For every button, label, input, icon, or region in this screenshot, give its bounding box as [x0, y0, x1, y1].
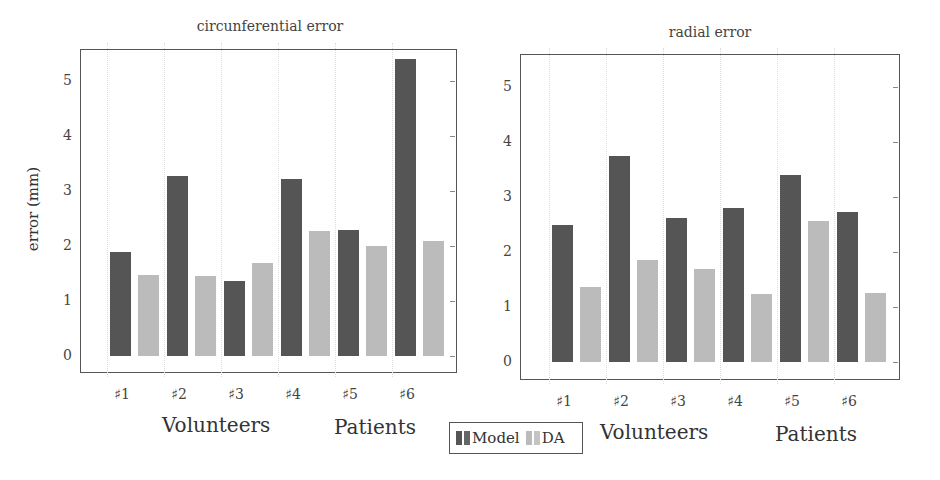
chart-circumferential-error: circunferential error error (mm) Volunte… [0, 0, 470, 460]
y-tick-label: 1 [492, 298, 512, 314]
bar-model-3 [666, 218, 687, 362]
bar-da-5 [366, 246, 387, 356]
group-label-patients: Patients [775, 422, 857, 446]
x-tick-label: ♯2 [159, 386, 199, 402]
y-tick-label: 4 [52, 127, 72, 143]
bar-da-3 [252, 263, 273, 357]
bar-da-1 [580, 287, 601, 362]
bar-model-4 [723, 208, 744, 362]
y-tick-label: 4 [492, 133, 512, 149]
grid-line [720, 48, 721, 384]
legend-label-model: Model [472, 429, 520, 447]
grid-line [834, 48, 835, 384]
group-label-volunteers: Volunteers [600, 420, 708, 444]
y-tick-mark [450, 301, 455, 302]
x-tick-label: ♯4 [273, 386, 313, 402]
bar-model-6 [837, 212, 858, 362]
bar-da-3 [694, 269, 715, 363]
grid-line [221, 43, 222, 377]
chart-radial-error: radial error Volunteers Patients ♯1♯2♯3♯… [470, 0, 940, 460]
grid-line [335, 43, 336, 377]
bar-model-6 [395, 59, 416, 356]
y-tick-label: 1 [52, 292, 72, 308]
grid-line [606, 48, 607, 384]
bar-da-4 [751, 294, 772, 362]
y-tick-mark [450, 191, 455, 192]
x-tick-label: ♯3 [216, 386, 256, 402]
y-tick-label: 3 [52, 182, 72, 198]
bar-model-3 [224, 281, 245, 356]
y-tick-mark [450, 246, 455, 247]
y-tick-mark [450, 136, 455, 137]
x-tick-label: ♯6 [387, 386, 427, 402]
x-tick-label: ♯6 [829, 393, 869, 409]
y-tick-label: 2 [492, 243, 512, 259]
y-tick-label: 0 [492, 353, 512, 369]
y-tick-mark [450, 81, 455, 82]
y-tick-label: 0 [52, 347, 72, 363]
bar-model-5 [338, 230, 359, 356]
y-tick-label: 5 [492, 78, 512, 94]
y-tick-label: 5 [52, 72, 72, 88]
y-tick-mark [893, 362, 898, 363]
y-tick-mark [450, 356, 455, 357]
bar-model-4 [281, 179, 302, 356]
bar-da-6 [865, 293, 886, 362]
x-tick-label: ♯1 [544, 393, 584, 409]
x-tick-label: ♯1 [102, 386, 142, 402]
legend-swatch-model [464, 431, 470, 445]
bar-model-2 [609, 156, 630, 362]
bar-model-1 [552, 225, 573, 363]
bar-model-2 [167, 176, 188, 356]
x-tick-label: ♯4 [715, 393, 755, 409]
x-tick-label: ♯5 [772, 393, 812, 409]
grid-line [278, 43, 279, 377]
grid-line [392, 43, 393, 377]
bar-da-1 [138, 275, 159, 356]
grid-line [107, 43, 108, 377]
legend-swatch-da [526, 431, 532, 445]
y-axis-label: error (mm) [24, 164, 42, 254]
y-tick-mark [893, 252, 898, 253]
group-label-volunteers: Volunteers [162, 413, 270, 437]
grid-line [663, 48, 664, 384]
y-tick-mark [893, 87, 898, 88]
bar-model-1 [110, 252, 131, 357]
legend-swatch-da [534, 431, 540, 445]
group-label-patients: Patients [334, 415, 416, 439]
legend-label-da: DA [542, 429, 565, 447]
bar-da-2 [195, 276, 216, 356]
bar-da-4 [309, 231, 330, 356]
bar-da-2 [637, 260, 658, 362]
legend: Model DA [449, 422, 583, 454]
bar-da-5 [808, 221, 829, 362]
grid-line [549, 48, 550, 384]
grid-line [777, 48, 778, 384]
y-tick-label: 3 [492, 188, 512, 204]
y-tick-mark [893, 307, 898, 308]
bar-da-6 [423, 241, 444, 357]
bar-model-5 [780, 175, 801, 362]
grid-line [164, 43, 165, 377]
y-tick-mark [893, 197, 898, 198]
x-tick-label: ♯3 [658, 393, 698, 409]
legend-swatch-model [456, 431, 462, 445]
y-tick-label: 2 [52, 237, 72, 253]
y-tick-mark [893, 142, 898, 143]
chart-title: circunferential error [190, 18, 350, 34]
chart-title: radial error [630, 24, 790, 40]
x-tick-label: ♯2 [601, 393, 641, 409]
x-tick-label: ♯5 [330, 386, 370, 402]
